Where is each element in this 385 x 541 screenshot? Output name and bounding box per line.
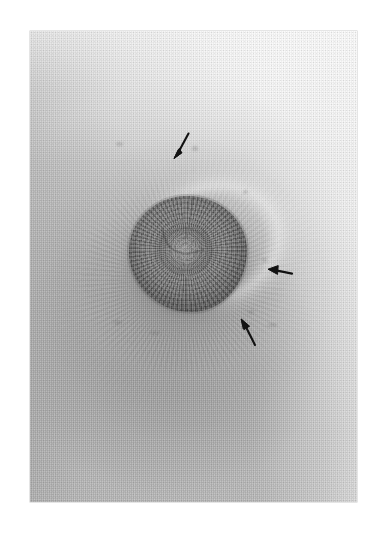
clinical-photograph — [30, 31, 357, 502]
arrow-lateral — [265, 262, 295, 280]
print-grain-speckle — [30, 31, 357, 502]
page-canvas — [0, 0, 385, 541]
arrow-inferolateral — [235, 316, 261, 348]
arrow-superior — [168, 131, 194, 163]
